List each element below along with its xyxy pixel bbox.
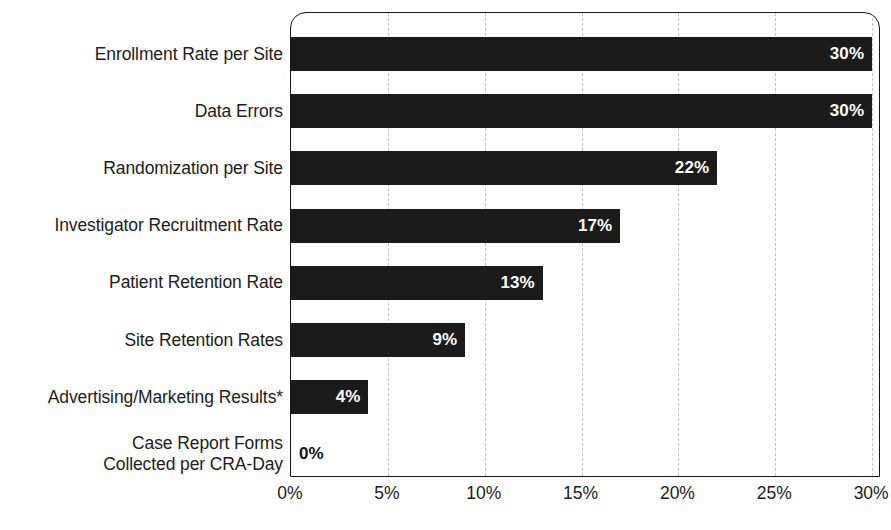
category-label: Investigator Recruitment Rate <box>0 215 283 236</box>
bar <box>291 94 872 128</box>
x-tick-label: 25% <box>757 483 792 504</box>
plot-area: 30%30%22%17%13%9%4%0% <box>290 12 880 477</box>
x-tick-label: 20% <box>660 483 695 504</box>
bar-value-label: 30% <box>826 94 864 128</box>
bar <box>291 209 620 243</box>
x-axis-tick-labels: 0%5%10%15%20%25%30% <box>290 477 880 517</box>
gridline-30% <box>872 13 873 476</box>
x-tick-label: 10% <box>466 483 501 504</box>
bar-value-label: 17% <box>574 209 612 243</box>
category-label: Case Report Forms Collected per CRA-Day <box>0 433 283 475</box>
chart-page: Enrollment Rate per SiteData ErrorsRando… <box>0 0 891 530</box>
category-label: Patient Retention Rate <box>0 272 283 293</box>
category-label: Site Retention Rates <box>0 330 283 351</box>
bar-value-label: 0% <box>299 437 324 471</box>
x-tick-label: 5% <box>374 483 399 504</box>
gridline-5% <box>388 13 389 476</box>
x-tick-label: 30% <box>854 483 889 504</box>
bar-value-label: 9% <box>419 323 457 357</box>
category-axis-labels: Enrollment Rate per SiteData ErrorsRando… <box>0 12 283 477</box>
bar-value-label: 22% <box>671 151 709 185</box>
category-label: Data Errors <box>0 101 283 122</box>
x-tick-label: 0% <box>277 483 302 504</box>
bar <box>291 151 717 185</box>
gridline-10% <box>485 13 486 476</box>
category-label: Advertising/Marketing Results* <box>0 387 283 408</box>
bar-value-label: 4% <box>322 380 360 414</box>
bar <box>291 37 872 71</box>
category-label: Randomization per Site <box>0 158 283 179</box>
bar-value-label: 13% <box>497 266 535 300</box>
bar-value-label: 30% <box>826 37 864 71</box>
x-tick-label: 15% <box>563 483 598 504</box>
plot-inner: 30%30%22%17%13%9%4%0% <box>291 13 879 476</box>
gridline-15% <box>582 13 583 476</box>
gridline-20% <box>678 13 679 476</box>
gridline-25% <box>775 13 776 476</box>
category-label: Enrollment Rate per Site <box>0 44 283 65</box>
